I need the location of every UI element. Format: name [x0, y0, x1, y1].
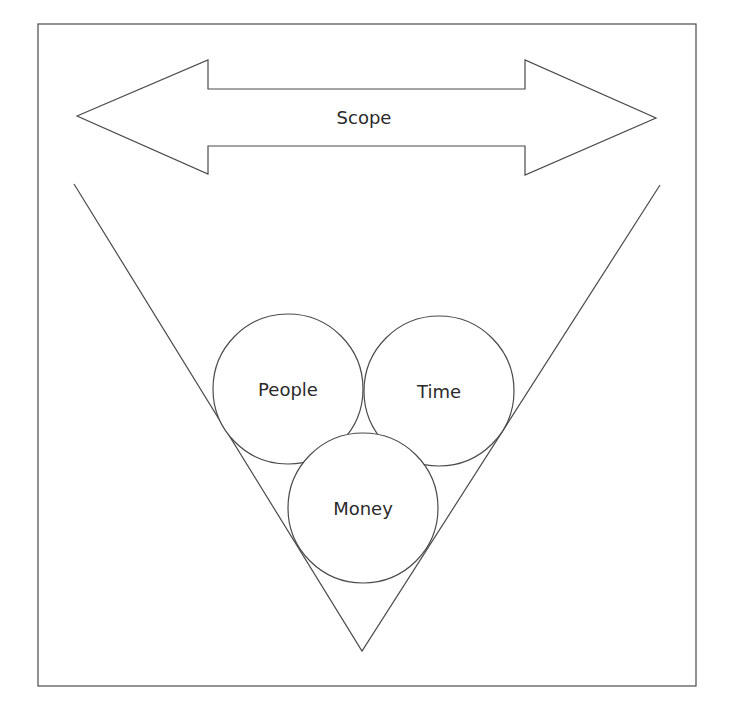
- circle-money: Money: [288, 433, 438, 583]
- people-label: People: [258, 379, 318, 400]
- time-label: Time: [416, 381, 461, 402]
- scope-label: Scope: [337, 107, 392, 128]
- scope-triangle-diagram: Scope People Time Money: [0, 0, 730, 714]
- money-label: Money: [333, 498, 393, 519]
